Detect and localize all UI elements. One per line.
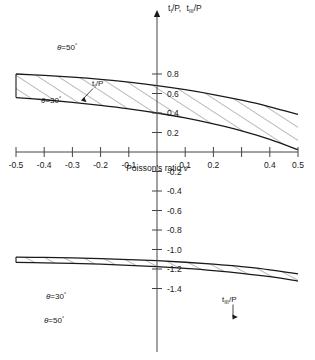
x-tick-label: 0.4 [264,160,276,170]
annotation-theta-50-lower: θ=50° [44,315,64,325]
x-axis-title: Poisson's ratio ν [126,163,188,173]
x-tick-label: -0.3 [65,160,80,170]
y-tick-label: -0.4 [167,186,182,196]
y-tick-label: 0.2 [167,128,179,138]
x-tick-label: -0.4 [37,160,52,170]
y-tick-label: 0.4 [167,108,179,118]
poisson-ratio-chart: -0.5-0.4-0.3-0.2-0.10.10.20.40.5 0.80.60… [0,0,315,360]
annotation-theta-30-lower: θ=30° [46,291,66,301]
x-tick-label: 0.5 [292,160,304,170]
chart-container: -0.5-0.4-0.3-0.2-0.10.10.20.40.5 0.80.60… [0,0,315,360]
svg-text:tI/P: tI/P [92,79,103,89]
y-tick-label: -0.6 [167,206,182,216]
y-tick-label: 0.8 [167,69,179,79]
annotation-theta-30-upper: θ=30° [41,95,61,105]
y-tick-label: 0.6 [167,89,179,99]
svg-text:θ=30°: θ=30° [41,95,61,105]
y-tick-label: -1.4 [167,284,182,294]
annotation-theta-50-upper: θ=50° [57,42,77,52]
x-tick-label: -0.2 [93,160,108,170]
svg-text:θ=50°: θ=50° [44,315,64,325]
svg-text:θ=50°: θ=50° [57,42,77,52]
svg-text:θ=30°: θ=30° [46,291,66,301]
y-tick-label: -0.8 [167,225,182,235]
svg-text:tIII/P: tIII/P [222,295,236,305]
y-tick-label: -1.0 [167,245,182,255]
x-tick-label: -0.5 [9,160,24,170]
x-tick-label: 0.2 [207,160,219,170]
y-tick-label: -1.2 [167,264,182,274]
